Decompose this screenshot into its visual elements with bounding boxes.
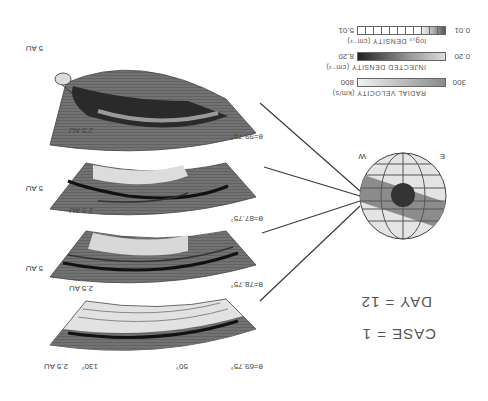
legend-injected-density-title: INJECTED DENSITY (cm⁻³) xyxy=(326,63,426,71)
legend-radial-velocity-max: 800 xyxy=(341,78,354,87)
legend-injected-density-min: 0.20 xyxy=(454,52,470,61)
legend-radial-velocity-min: 300 xyxy=(453,78,466,87)
panel-2-outer-label: 5 AU xyxy=(26,264,43,273)
panel-1-angle-right: 130° xyxy=(81,362,98,371)
figure-rotated-180: CASE = 1 DAY = 12 xyxy=(0,0,488,401)
connector-lines xyxy=(260,103,360,301)
west-label: W xyxy=(358,152,366,161)
panel-4-inner-label: 2.5 AU xyxy=(69,126,93,135)
legend-log-density-bar xyxy=(357,26,446,35)
legend-injected-density-bar xyxy=(357,52,446,61)
east-label: E xyxy=(440,152,445,161)
panel-2-inner-label: 2.5 AU xyxy=(69,284,93,293)
panel-1-theta-label: θ=69.75° xyxy=(231,362,263,371)
panel-2-theta-label: θ=78.75° xyxy=(231,280,263,289)
panel-theta-99 xyxy=(50,70,256,151)
legend-radial-velocity-bar xyxy=(357,78,446,87)
sun-sphere xyxy=(358,153,448,239)
legend-log-density-title: log₁₀ DENSITY (cm⁻³) xyxy=(347,37,426,45)
panel-4-theta-label: θ=99.75° xyxy=(231,132,263,141)
cme-cloud-core xyxy=(391,183,415,207)
panel-1-angle-left: 50° xyxy=(176,362,188,371)
legend-injected-density-max: 8.20 xyxy=(338,52,354,61)
legend-log-density-min: 0.01 xyxy=(454,26,470,35)
legend-radial-velocity-title: RADIAL VELOCITY (km/s) xyxy=(332,90,426,97)
legend-log-density-max: 5.01 xyxy=(338,26,354,35)
panel-theta-69 xyxy=(50,299,256,350)
panel-3-inner-label: 2.5 AU xyxy=(69,206,93,215)
panel-1-inner-label: 2.5 AU xyxy=(44,362,68,371)
panel-3-outer-label: 5 AU xyxy=(26,184,43,193)
panel-4-outer-label: 5 AU xyxy=(26,44,43,53)
panel-3-theta-label: θ=87.75° xyxy=(231,214,263,223)
panel-theta-78 xyxy=(50,231,256,283)
